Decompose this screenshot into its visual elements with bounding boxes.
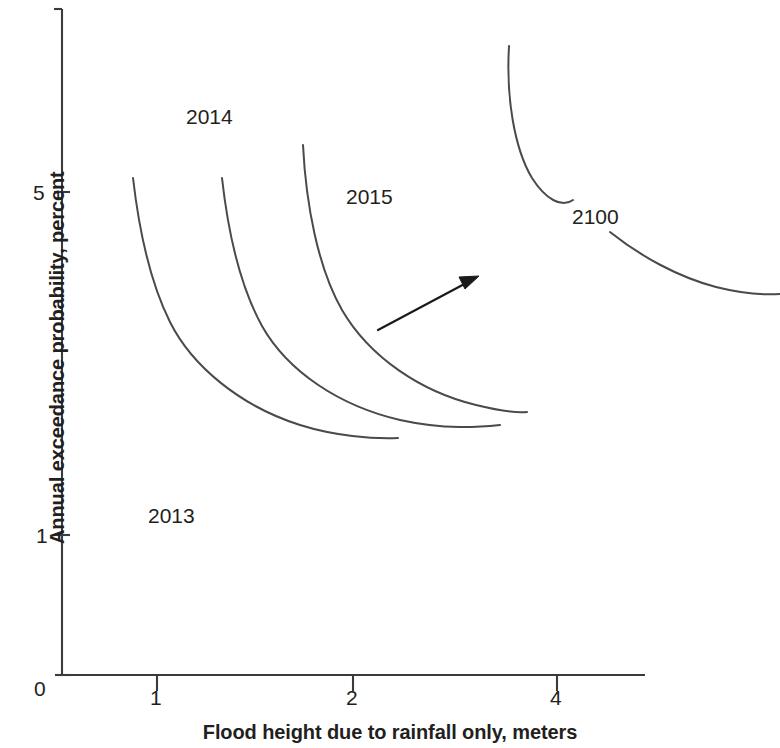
y-tick-label-0: 0 bbox=[34, 678, 46, 699]
curve-2100-upper bbox=[508, 46, 573, 203]
y-tick-label-1: 1 bbox=[36, 525, 48, 546]
x-tick-label-2: 2 bbox=[346, 687, 358, 708]
series-label-2014: 2014 bbox=[186, 106, 233, 127]
flood-exceedance-probability-chart: Annual exceedance probability, percent F… bbox=[0, 0, 780, 748]
trend-arrow-head bbox=[459, 276, 479, 289]
x-axis-title: Flood height due to rainfall only, meter… bbox=[0, 722, 780, 742]
curve-2015 bbox=[303, 145, 527, 412]
y-axis-title: Annual exceedance probability, percent bbox=[47, 204, 67, 544]
y-tick-label-5: 5 bbox=[33, 182, 45, 203]
curve-2100-lower bbox=[610, 232, 780, 294]
curve-2013 bbox=[133, 178, 398, 438]
series-label-2013: 2013 bbox=[148, 505, 195, 526]
trend-arrow-shaft bbox=[378, 281, 470, 330]
series-label-2015: 2015 bbox=[346, 186, 393, 207]
x-tick-label-4: 4 bbox=[550, 687, 562, 708]
series-label-2100: 2100 bbox=[572, 206, 619, 227]
curve-2014 bbox=[222, 178, 500, 427]
x-tick-label-1: 1 bbox=[150, 687, 162, 708]
chart-plot-area bbox=[0, 0, 780, 748]
